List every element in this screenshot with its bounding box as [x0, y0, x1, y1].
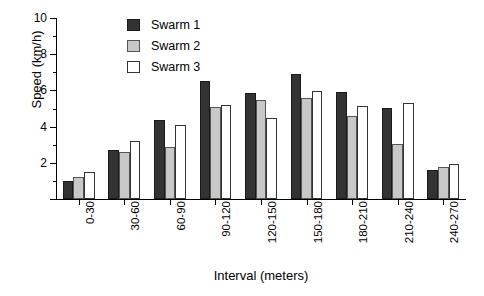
bar[interactable]: [301, 98, 312, 199]
x-category-label: 150-180: [312, 201, 324, 271]
bar[interactable]: [119, 152, 130, 199]
bar[interactable]: [392, 144, 403, 199]
plot-area: 246810: [56, 18, 466, 200]
x-category-label: 0-30: [84, 201, 96, 271]
bar[interactable]: [165, 147, 176, 199]
bar[interactable]: [73, 177, 84, 199]
bars-layer: [56, 18, 466, 200]
bar[interactable]: [382, 108, 393, 199]
bar[interactable]: [427, 170, 438, 199]
bar[interactable]: [449, 164, 460, 199]
legend-swatch-icon: [127, 40, 140, 52]
legend-label: Swarm 2: [151, 39, 200, 53]
chart-legend: Swarm 1Swarm 2Swarm 3: [127, 14, 247, 77]
legend-item[interactable]: Swarm 1: [127, 14, 247, 35]
bar[interactable]: [312, 91, 323, 199]
bar[interactable]: [175, 125, 186, 199]
bar[interactable]: [336, 92, 347, 199]
bar[interactable]: [84, 172, 95, 199]
legend-item[interactable]: Swarm 2: [127, 35, 247, 56]
bar[interactable]: [210, 107, 221, 199]
bar[interactable]: [438, 167, 449, 199]
x-category-label: 90-120: [220, 201, 232, 271]
y-tick-label: 8: [40, 47, 47, 61]
bar-group: [245, 18, 277, 199]
x-category-label: 210-240: [403, 201, 415, 271]
bar[interactable]: [245, 93, 256, 199]
bar[interactable]: [266, 118, 277, 199]
legend-label: Swarm 3: [151, 60, 200, 74]
x-category-label: 180-210: [357, 201, 369, 271]
y-tick-label: 2: [40, 156, 47, 170]
bar-group: [427, 18, 459, 199]
x-category-label: 30-60: [129, 201, 141, 271]
bar[interactable]: [221, 105, 232, 199]
x-category-label: 60-90: [175, 201, 187, 271]
y-tick-label: 4: [40, 120, 47, 134]
legend-swatch-icon: [127, 19, 140, 31]
bar-group: [63, 18, 95, 199]
bar[interactable]: [200, 81, 211, 199]
x-category-label: 120-150: [266, 201, 278, 271]
bar-chart-figure: Speed (km/h) 246810 0-3030-6060-9090-120…: [0, 0, 484, 296]
bar[interactable]: [357, 106, 368, 199]
x-axis-category-labels: 0-3030-6060-9090-120120-150150-180180-21…: [56, 201, 466, 263]
x-axis-title: Interval (meters): [56, 268, 466, 283]
bar-group: [382, 18, 414, 199]
bar[interactable]: [63, 181, 74, 199]
y-tick-label: 6: [40, 83, 47, 97]
legend-label: Swarm 1: [151, 18, 200, 32]
bar[interactable]: [108, 150, 119, 199]
bar-group: [336, 18, 368, 199]
bar-group: [291, 18, 323, 199]
bar[interactable]: [403, 103, 414, 199]
bar[interactable]: [130, 141, 141, 199]
y-tick-label: 10: [34, 11, 47, 25]
bar[interactable]: [347, 116, 358, 199]
bar[interactable]: [256, 100, 267, 199]
bar[interactable]: [154, 120, 165, 199]
x-category-label: 240-270: [448, 201, 460, 271]
bar[interactable]: [291, 74, 302, 199]
legend-swatch-icon: [127, 61, 140, 73]
legend-item[interactable]: Swarm 3: [127, 56, 247, 77]
